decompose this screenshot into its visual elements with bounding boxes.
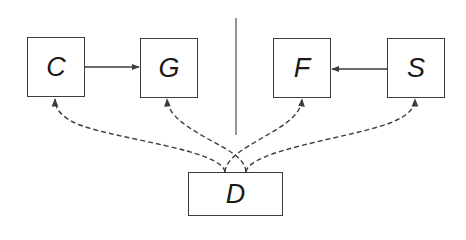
node-d: D <box>188 172 283 216</box>
node-f: F <box>273 38 331 98</box>
node-s: S <box>387 38 445 98</box>
node-c: C <box>27 37 85 97</box>
node-s-label: S <box>407 53 425 84</box>
node-d-label: D <box>226 179 246 210</box>
node-f-label: F <box>294 53 311 84</box>
edge-d-to-c <box>55 99 225 172</box>
node-g: G <box>140 38 198 98</box>
edge-d-to-s <box>246 99 415 172</box>
edge-d-to-g <box>167 99 246 172</box>
node-g-label: G <box>158 53 179 84</box>
node-c-label: C <box>46 52 66 83</box>
